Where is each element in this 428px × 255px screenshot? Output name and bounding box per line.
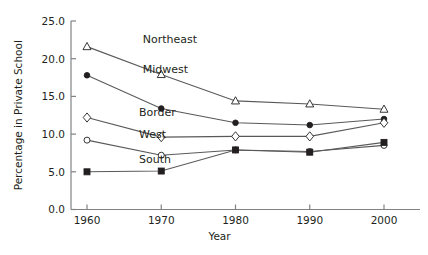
x-axis-ticks: 19601970198019902000 [74, 205, 398, 226]
marker-filled-circle [84, 72, 90, 78]
marker-open-diamond [232, 132, 240, 141]
marker-open-triangle [83, 42, 91, 49]
x-tick-label: 1980 [222, 214, 249, 226]
marker-filled-square [233, 147, 239, 153]
marker-filled-square [381, 139, 387, 145]
marker-open-circle [84, 137, 90, 143]
x-tick-label: 1990 [296, 214, 323, 226]
marker-filled-circle [233, 120, 239, 126]
x-tick-label: 1960 [74, 214, 101, 226]
marker-filled-circle [307, 122, 313, 128]
marker-open-diamond [83, 113, 91, 122]
y-tick-label: 5.0 [48, 166, 65, 178]
axis-titles: YearPercentage in Private School [12, 40, 231, 241]
series-label-northeast: Northeast [143, 33, 198, 46]
series-northeast [83, 42, 388, 112]
series-border [83, 113, 388, 142]
chart-axes [71, 21, 420, 210]
y-axis-title: Percentage in Private School [12, 40, 24, 190]
marker-filled-square [158, 168, 164, 174]
y-tick-label: 25.0 [42, 15, 65, 27]
y-tick-label: 20.0 [42, 53, 65, 65]
x-tick-label: 1970 [148, 214, 175, 226]
marker-filled-square [307, 149, 313, 155]
chart-series-group [83, 42, 388, 174]
x-axis-title: Year [207, 230, 231, 242]
chart-plot-area: 0.05.010.015.020.025.0 19601970198019902… [0, 0, 428, 255]
series-label-midwest: Midwest [143, 63, 189, 76]
x-tick-label: 2000 [371, 214, 398, 226]
y-tick-label: 0.0 [48, 203, 65, 215]
marker-filled-square [84, 169, 90, 175]
series-south [84, 139, 387, 174]
series-inline-labels: NortheastMidwestBorderWestSouth [139, 33, 198, 166]
y-tick-label: 10.0 [42, 128, 65, 140]
private-school-line-chart: 0.05.010.015.020.025.0 19601970198019902… [0, 0, 428, 255]
marker-open-diamond [306, 132, 314, 141]
series-label-west: West [139, 128, 167, 141]
series-label-south: South [139, 153, 171, 166]
y-tick-label: 15.0 [42, 90, 65, 102]
series-label-border: Border [139, 106, 176, 119]
